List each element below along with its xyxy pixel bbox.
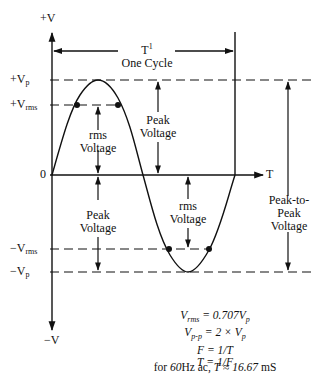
formula-block: Vrms = 0.707Vp Vp-p = 2 × Vp F = 1/T T =… xyxy=(150,309,280,368)
peak-voltage-top-label: Peak Voltage xyxy=(133,114,183,140)
rms-voltage-bottom-label: rms Voltage xyxy=(163,200,213,226)
pos-rms-dot-left xyxy=(74,102,80,108)
zero-label: 0 xyxy=(40,168,46,181)
formula-vpp: Vp-p = 2 × Vp xyxy=(150,326,280,343)
y-axis-bottom-label: −V xyxy=(44,334,59,347)
footnote: for 60Hz ac, T ≈ 16.67 mS xyxy=(120,361,310,373)
x-axis-label: T xyxy=(266,168,273,181)
neg-rms-dot-left xyxy=(166,246,172,252)
pos-rms-dot-right xyxy=(115,102,121,108)
rms-voltage-top-label: rms Voltage xyxy=(73,129,123,155)
cycle-label: T1 One Cycle xyxy=(112,40,182,70)
formula-vrms: Vrms = 0.707Vp xyxy=(150,309,280,326)
neg-rms-label: −Vrms xyxy=(10,242,37,258)
peak-to-peak-label: Peak-to- Peak Voltage xyxy=(262,194,316,233)
pos-rms-label: +Vrms xyxy=(10,98,37,114)
neg-rms-dot-right xyxy=(206,246,212,252)
y-axis-top-label: +V xyxy=(40,12,55,25)
peak-voltage-bottom-label: Peak Voltage xyxy=(73,209,123,235)
sine-curve xyxy=(52,80,235,272)
pos-peak-label: +Vp xyxy=(10,73,29,89)
formula-f: F = 1/T xyxy=(150,344,280,356)
neg-peak-label: −Vp xyxy=(10,265,29,281)
